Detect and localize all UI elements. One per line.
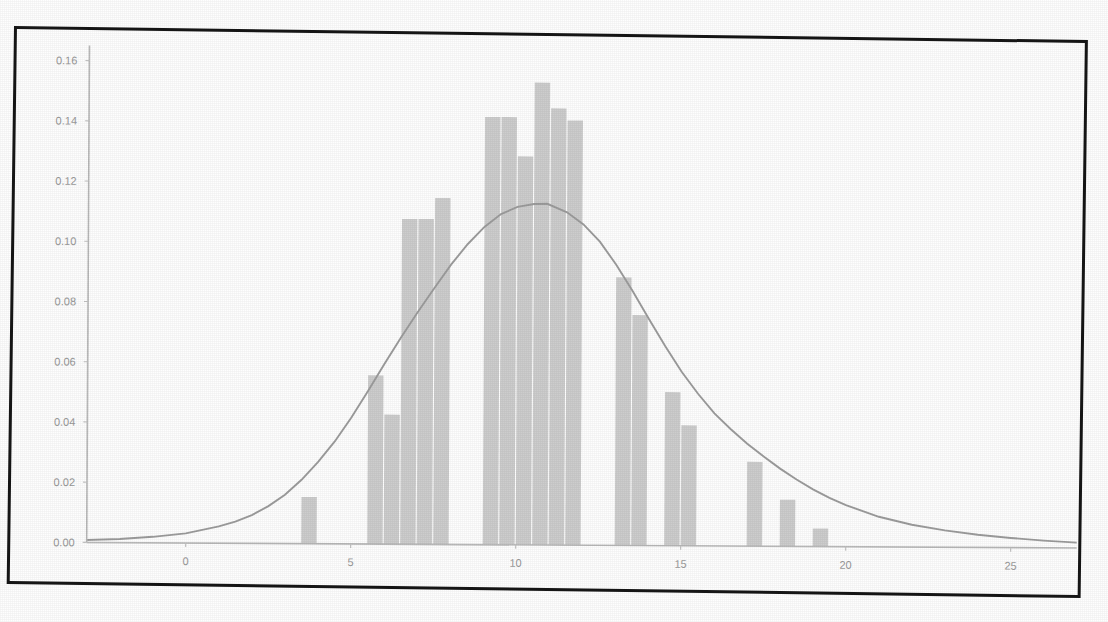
y-axis-ticks: 0.000.020.040.060.080.100.120.140.16 xyxy=(53,54,89,548)
x-tick-label: 0 xyxy=(182,555,188,567)
histogram-bar xyxy=(747,462,763,546)
histogram-bar xyxy=(384,415,400,545)
histogram-bars xyxy=(301,81,830,546)
y-tick-label: 0.16 xyxy=(56,54,77,66)
histogram-bar xyxy=(813,528,829,546)
histogram-bar xyxy=(433,198,450,544)
histogram-bar xyxy=(532,83,550,545)
x-tick-label: 15 xyxy=(674,558,686,570)
histogram-bar xyxy=(681,425,697,546)
y-tick-label: 0.14 xyxy=(56,115,77,127)
y-tick-label: 0.08 xyxy=(55,295,76,307)
y-tick-label: 0.12 xyxy=(55,175,76,187)
histogram-bar xyxy=(499,117,517,545)
y-tick-label: 0.02 xyxy=(54,476,75,488)
histogram-bar xyxy=(631,315,648,546)
histogram-bar xyxy=(483,117,501,545)
y-tick-label: 0.06 xyxy=(54,355,75,367)
y-tick-label: 0.00 xyxy=(53,536,74,548)
kde-curve xyxy=(87,201,1079,545)
histogram-bar xyxy=(565,120,583,545)
x-tick-label: 5 xyxy=(347,556,353,568)
x-tick-label: 25 xyxy=(1004,560,1016,572)
y-tick-label: 0.04 xyxy=(54,416,75,428)
histogram-bar xyxy=(615,277,632,545)
x-tick-label: 20 xyxy=(839,559,851,571)
histogram-kde-chart: 0.000.020.040.060.080.100.120.140.16 051… xyxy=(0,0,1108,622)
x-axis-line xyxy=(87,542,1077,548)
histogram-bar xyxy=(400,219,417,544)
y-axis-line xyxy=(87,45,90,542)
histogram-bar xyxy=(516,156,534,545)
figure-page: 0.000.020.040.060.080.100.120.140.16 051… xyxy=(0,0,1108,622)
histogram-bar xyxy=(367,375,383,544)
histogram-bar xyxy=(664,392,680,546)
plot-area: 0.000.020.040.060.080.100.120.140.16 051… xyxy=(0,0,1108,622)
histogram-bar xyxy=(549,108,567,545)
y-tick-label: 0.10 xyxy=(55,235,76,247)
x-tick-label: 10 xyxy=(509,557,521,569)
axes xyxy=(87,45,1080,548)
histogram-bar xyxy=(417,219,434,544)
histogram-bar xyxy=(301,497,317,544)
histogram-bar xyxy=(780,500,796,547)
